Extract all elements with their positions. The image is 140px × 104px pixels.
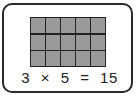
grid-cell — [46, 35, 60, 50]
equals-sign: = — [80, 69, 89, 86]
grid-cell — [46, 51, 60, 66]
grid-cell — [31, 35, 45, 50]
factor-a: 3 — [21, 69, 30, 86]
array-grid — [30, 17, 106, 67]
array-card: 3 × 5 = 15 — [2, 3, 133, 93]
grid-cell — [91, 35, 105, 50]
grid-cell — [61, 18, 75, 33]
grid-cell — [46, 18, 60, 33]
grid-cell — [61, 51, 75, 66]
grid-cell — [91, 18, 105, 33]
grid-cell — [76, 51, 90, 66]
grid-cell — [76, 35, 90, 50]
product: 15 — [100, 69, 118, 86]
grid-cell — [31, 51, 45, 66]
grid-cell — [76, 18, 90, 33]
grid-cell — [91, 51, 105, 66]
times-sign: × — [41, 69, 50, 86]
grid-cell — [31, 18, 45, 33]
factor-b: 5 — [61, 69, 70, 86]
grid-cell — [61, 35, 75, 50]
multiplication-equation: 3 × 5 = 15 — [4, 69, 135, 86]
